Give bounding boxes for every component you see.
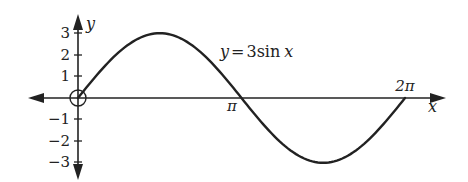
function-label: y=3sinx [219, 42, 293, 61]
y-tick-2: 2 [60, 46, 70, 64]
y-tick-neg1: −1 [48, 110, 70, 128]
y-tick-1: 1 [60, 67, 70, 85]
y-tick-neg3: −3 [48, 153, 70, 171]
y-axis-down-arrow-icon [73, 164, 83, 180]
x-axis-label: x [428, 97, 437, 116]
x-tick-pi: π [226, 97, 238, 115]
y-tick-3: 3 [60, 24, 70, 42]
x-tick-2pi: 2π [394, 77, 416, 95]
y-axis-label: y [85, 14, 96, 33]
sine-graph: 3 2 1 −1 −2 −3 y x π 2π y=3sinx [0, 0, 468, 182]
y-axis-up-arrow-icon [73, 14, 83, 30]
y-tick-neg2: −2 [48, 132, 70, 150]
x-axis-left-arrow-icon [28, 93, 44, 103]
